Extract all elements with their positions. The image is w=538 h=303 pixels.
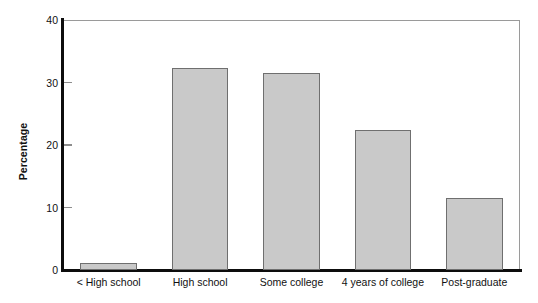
x-tick-label-1: < High school bbox=[63, 276, 154, 288]
y-axis-title: Percentage bbox=[10, 0, 36, 303]
bar-slot bbox=[355, 20, 412, 270]
x-tick-label-5: Post-graduate bbox=[429, 276, 520, 288]
y-tick-label-10: 10 bbox=[4, 202, 58, 214]
x-axis-tick-labels: < High schoolHigh schoolSome college4 ye… bbox=[63, 276, 520, 298]
bar-2 bbox=[172, 68, 229, 270]
y-tick-label-40: 40 bbox=[4, 14, 58, 26]
bar-chart-figure: Percentage 010203040 < High schoolHigh s… bbox=[0, 0, 538, 303]
bar-5 bbox=[446, 198, 503, 270]
bar-3 bbox=[263, 73, 320, 271]
y-tick-label-20: 20 bbox=[4, 139, 58, 151]
bars-layer bbox=[63, 20, 520, 270]
bar-slot bbox=[80, 20, 137, 270]
x-tick-label-3: Some college bbox=[246, 276, 337, 288]
bar-4 bbox=[355, 130, 412, 270]
bar-slot bbox=[263, 20, 320, 270]
y-tick-label-0: 0 bbox=[4, 264, 58, 276]
x-tick-label-2: High school bbox=[154, 276, 245, 288]
y-tick-label-30: 30 bbox=[4, 77, 58, 89]
bar-slot bbox=[446, 20, 503, 270]
x-tick-label-4: 4 years of college bbox=[337, 276, 428, 288]
bar-1 bbox=[80, 263, 137, 270]
bar-slot bbox=[172, 20, 229, 270]
